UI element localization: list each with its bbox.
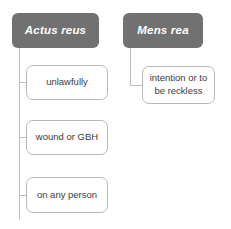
offence-elements-diagram: Actus reus Mens rea unlawfully wound or … (0, 0, 231, 229)
connector-mens-rea-trunk (130, 48, 131, 85)
node-leaf-on-any-person: on any person (26, 177, 108, 213)
node-leaf-unlawfully: unlawfully (26, 65, 108, 100)
node-leaf-wound-or-gbh: wound or GBH (26, 120, 108, 155)
node-header-actus-reus: Actus reus (12, 13, 99, 48)
node-leaf-intention-or-to-be-reckless: intention or to be reckless (142, 66, 215, 104)
node-header-mens-rea: Mens rea (123, 13, 203, 48)
